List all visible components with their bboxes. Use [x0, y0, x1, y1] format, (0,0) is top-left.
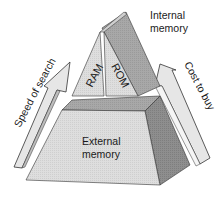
internal-memory-label-line1: Internal: [150, 9, 185, 21]
memory-pyramid-diagram: RAM ROM Internal memory External memory …: [0, 0, 223, 197]
cost-to-buy-label: Cost to buy: [182, 59, 218, 112]
external-memory-label-line2: memory: [82, 148, 121, 160]
internal-memory-label-line2: memory: [150, 22, 189, 34]
base-top-face: [62, 96, 160, 111]
external-memory-label-line1: External: [82, 135, 121, 147]
